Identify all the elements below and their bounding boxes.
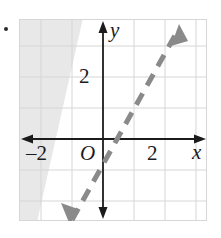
origin-label: O bbox=[80, 143, 95, 164]
y-tick-label-2: 2 bbox=[79, 66, 90, 87]
bullet-marker bbox=[4, 27, 8, 31]
coordinate-plane bbox=[19, 19, 207, 221]
x-axis-label: x bbox=[192, 142, 201, 163]
x-tick-label-neg2: –2 bbox=[26, 143, 47, 164]
y-axis-label: y bbox=[110, 20, 119, 41]
x-tick-label-2: 2 bbox=[147, 143, 158, 164]
graph-figure: –2 O 2 x 2 y bbox=[0, 0, 221, 238]
coordinate-plane-svg bbox=[19, 19, 207, 221]
